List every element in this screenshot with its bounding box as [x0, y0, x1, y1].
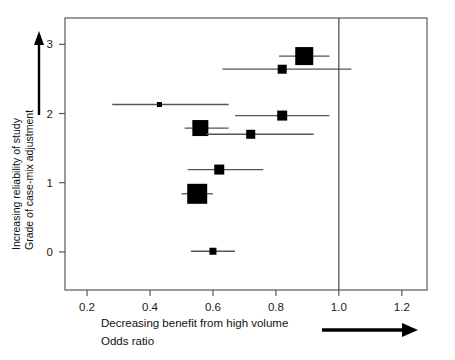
x-axis-label-line1: Decreasing benefit from high volume	[101, 317, 288, 329]
y-tick-label: 1	[47, 177, 53, 189]
x-tick-label: 0.8	[268, 301, 284, 313]
y-axis-label-line2: Grade of case-mix adjustment	[23, 110, 35, 250]
x-tick-label: 0.6	[205, 301, 221, 313]
y-tick-label: 2	[47, 108, 53, 120]
forest-plot-figure: 0.20.40.60.81.01.2 0123 Increasing relia…	[0, 0, 455, 360]
x-tick-label: 0.4	[142, 301, 159, 313]
odds-ratio-marker	[187, 184, 207, 204]
x-axis-label-line2: Odds ratio	[101, 335, 154, 347]
x-tick-label: 1.2	[394, 301, 410, 313]
odds-ratio-marker	[278, 65, 287, 74]
y-tick-label: 3	[47, 38, 53, 50]
odds-ratio-marker	[295, 47, 313, 65]
plot-background	[0, 0, 455, 360]
x-tick-label: 1.0	[331, 301, 347, 313]
odds-ratio-marker	[192, 120, 208, 136]
odds-ratio-marker	[246, 130, 255, 139]
x-tick-label: 0.2	[79, 301, 95, 313]
odds-ratio-marker	[209, 248, 216, 255]
odds-ratio-marker	[214, 165, 224, 175]
y-tick-label: 0	[47, 246, 53, 258]
y-axis-label-line1: Increasing reliability of study	[10, 117, 22, 250]
forest-plot-svg: 0.20.40.60.81.01.2 0123 Increasing relia…	[0, 0, 455, 360]
odds-ratio-marker	[277, 111, 287, 121]
odds-ratio-marker	[157, 102, 162, 107]
